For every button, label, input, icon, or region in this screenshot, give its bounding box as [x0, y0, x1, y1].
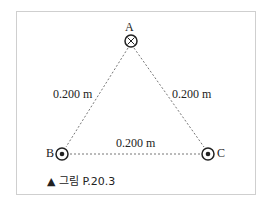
dot-icon-b [56, 148, 68, 160]
triangle-diagram [0, 0, 269, 211]
side-ab-label: 0.200 m [53, 87, 92, 102]
point-a-label: A [125, 20, 134, 35]
figure-caption: ▲ 그림 P.20.3 [47, 172, 115, 188]
point-c-label: C [217, 146, 225, 161]
dot-icon-c [202, 148, 214, 160]
cross-icon [125, 35, 137, 47]
side-bc-label: 0.200 m [116, 136, 155, 151]
side-ac-label: 0.200 m [172, 87, 211, 102]
point-b-label: B [46, 146, 54, 161]
